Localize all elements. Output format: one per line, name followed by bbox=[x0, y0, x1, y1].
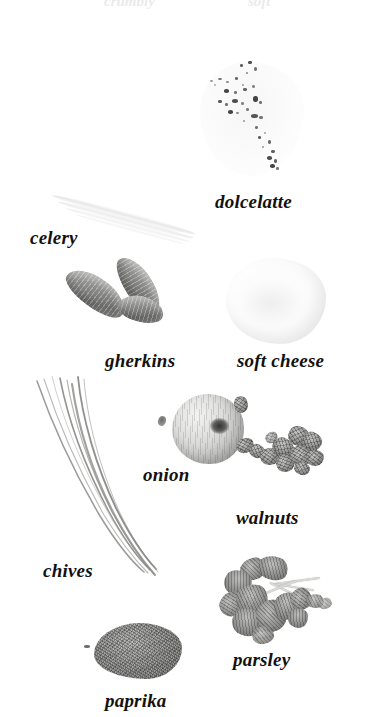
paprika-heap bbox=[94, 623, 182, 679]
parsley-leaf bbox=[255, 552, 291, 584]
label-chives: chives bbox=[43, 561, 93, 580]
ingredient-plate-page: crumbly soft bbox=[0, 0, 366, 717]
cut-off-text-right: soft bbox=[248, 0, 271, 9]
cut-off-text-left: crumbly bbox=[104, 0, 155, 9]
label-soft-cheese: soft cheese bbox=[237, 351, 324, 370]
specimen-paprika bbox=[88, 617, 188, 685]
specimen-gherkins bbox=[62, 266, 174, 344]
label-parsley: parsley bbox=[233, 650, 290, 669]
paprika-fleck bbox=[84, 645, 90, 648]
specimen-parsley bbox=[218, 556, 338, 648]
cut-off-top-text: crumbly soft bbox=[0, 0, 366, 9]
specimen-chives bbox=[34, 376, 168, 578]
specimen-walnuts bbox=[232, 396, 328, 480]
label-celery: celery bbox=[30, 228, 78, 247]
label-walnuts: walnuts bbox=[236, 508, 299, 527]
specimen-soft-cheese bbox=[226, 258, 326, 344]
label-paprika: paprika bbox=[105, 691, 167, 710]
specimen-dolcelatte bbox=[196, 58, 308, 180]
chives-strands bbox=[34, 376, 168, 578]
label-dolcelatte: dolcelatte bbox=[215, 192, 292, 211]
label-gherkins: gherkins bbox=[105, 351, 175, 370]
soft-cheese-shadow bbox=[238, 278, 304, 328]
walnut-piece bbox=[232, 395, 249, 415]
dolcelatte-body bbox=[200, 62, 304, 176]
onion-root-scar bbox=[210, 418, 229, 434]
